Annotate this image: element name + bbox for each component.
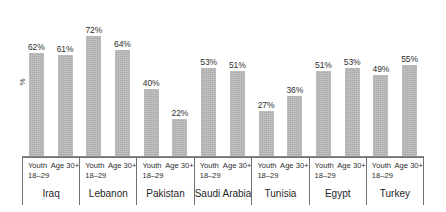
category-cell: Youth18–29Age 30+Saudi Arabia (194, 158, 252, 205)
age-group-label-line1: Youth (142, 161, 161, 171)
country-label: Pakistan (137, 184, 193, 205)
age-group-label-line1: Age 30+ (108, 161, 137, 171)
category-cell: Youth18–29Age 30+Turkey (366, 158, 423, 205)
age-group-label: Youth18–29 (252, 161, 279, 184)
bar-slot: 55% (395, 6, 424, 156)
age-group-label-line1: Youth (85, 161, 104, 171)
age-group-label-line1: Age 30+ (280, 161, 309, 171)
bar[interactable] (86, 36, 101, 156)
age-group-label: Age 30+ (107, 161, 137, 184)
bar-value-label: 51% (315, 61, 332, 70)
bar-slot: 27% (252, 6, 281, 156)
age-group-row: Youth18–29Age 30+ (310, 158, 366, 184)
bar[interactable] (115, 50, 130, 156)
age-group-row: Youth18–29Age 30+ (23, 158, 79, 184)
bar-group: 51%53% (309, 6, 366, 156)
age-group-label: Age 30+ (50, 161, 80, 184)
country-label: Egypt (310, 184, 366, 205)
bar-slot: 49% (367, 6, 396, 156)
bar-slot: 51% (223, 6, 252, 156)
bar-slot: 53% (338, 6, 367, 156)
age-group-label: Youth18–29 (310, 161, 337, 184)
bar-value-label: 51% (229, 61, 246, 70)
bar-value-label: 27% (258, 101, 275, 110)
bar[interactable] (259, 111, 274, 156)
age-group-label: Age 30+ (279, 161, 309, 184)
age-group-label-line1: Age 30+ (165, 161, 194, 171)
bar[interactable] (402, 65, 417, 156)
age-group-label: Youth18–29 (23, 161, 50, 184)
bar-slot: 51% (309, 6, 338, 156)
age-group-label: Age 30+ (164, 161, 194, 184)
bar-slot: 62% (22, 6, 51, 156)
age-group-label-line1: Age 30+ (395, 161, 424, 171)
age-group-label: Youth18–29 (137, 161, 164, 184)
age-group-label: Youth18–29 (195, 161, 222, 184)
country-label: Lebanon (80, 184, 136, 205)
bar-value-label: 53% (344, 58, 361, 67)
age-group-row: Youth18–29Age 30+ (80, 158, 136, 184)
bar[interactable] (316, 71, 331, 156)
bar-value-label: 53% (200, 58, 217, 67)
age-group-label-line1: Age 30+ (223, 161, 252, 171)
bar-slot: 72% (79, 6, 108, 156)
bar-slot: 64% (108, 6, 137, 156)
age-group-label-line1: Youth (200, 161, 219, 171)
country-label: Iraq (23, 184, 79, 205)
bar-value-label: 40% (143, 79, 160, 88)
age-group-label-line2: 18–29 (28, 171, 49, 181)
age-group-label: Age 30+ (222, 161, 252, 184)
category-cell: Youth18–29Age 30+Tunisia (251, 158, 308, 205)
bar-value-label: 22% (172, 109, 189, 118)
bar[interactable] (230, 71, 245, 156)
age-group-label-line1: Age 30+ (337, 161, 366, 171)
bar[interactable] (29, 53, 44, 156)
age-group-label-line1: Youth (315, 161, 334, 171)
bar-group: 62%61% (22, 6, 79, 156)
bar-groups: 62%61%72%64%40%22%53%51%27%36%51%53%49%5… (22, 6, 424, 156)
bar-slot: 36% (280, 6, 309, 156)
category-cell: Youth18–29Age 30+Egypt (309, 158, 366, 205)
age-group-label-line1: Age 30+ (51, 161, 80, 171)
bar-chart: % 62%61%72%64%40%22%53%51%27%36%51%53%49… (0, 0, 446, 212)
country-label: Tunisia (252, 184, 308, 205)
bar-value-label: 62% (28, 43, 45, 52)
bar[interactable] (201, 68, 216, 156)
bar-slot: 53% (194, 6, 223, 156)
age-group-label: Age 30+ (336, 161, 366, 184)
age-group-label-line2: 18–29 (142, 171, 163, 181)
bar-group: 49%55% (367, 6, 424, 156)
bar[interactable] (58, 55, 73, 156)
age-group-row: Youth18–29Age 30+ (367, 158, 423, 184)
bar-value-label: 49% (373, 65, 390, 74)
age-group-label-line1: Youth (372, 161, 391, 171)
bar-value-label: 36% (286, 86, 303, 95)
bar[interactable] (287, 96, 302, 156)
age-group-label: Youth18–29 (80, 161, 107, 184)
category-label-table: Youth18–29Age 30+IraqYouth18–29Age 30+Le… (22, 157, 424, 205)
bar-slot: 22% (166, 6, 195, 156)
bar-value-label: 64% (114, 40, 131, 49)
bar[interactable] (144, 89, 159, 156)
age-group-row: Youth18–29Age 30+ (195, 158, 252, 184)
bar-value-label: 55% (401, 55, 418, 64)
plot-area: 62%61%72%64%40%22%53%51%27%36%51%53%49%5… (22, 6, 424, 157)
bar-value-label: 61% (57, 45, 74, 54)
bar-group: 27%36% (252, 6, 309, 156)
age-group-row: Youth18–29Age 30+ (137, 158, 193, 184)
country-label: Saudi Arabia (195, 184, 252, 205)
country-label: Turkey (367, 184, 423, 205)
category-cell: Youth18–29Age 30+Iraq (22, 158, 79, 205)
age-group-row: Youth18–29Age 30+ (252, 158, 308, 184)
age-group-label-line1: Youth (257, 161, 276, 171)
bar-value-label: 72% (85, 26, 102, 35)
age-group-label-line2: 18–29 (315, 171, 336, 181)
bar[interactable] (373, 75, 388, 156)
age-group-label-line2: 18–29 (257, 171, 278, 181)
bar-group: 72%64% (79, 6, 136, 156)
bar[interactable] (345, 68, 360, 156)
bar[interactable] (172, 119, 187, 156)
age-group-label-line2: 18–29 (200, 171, 221, 181)
category-cell: Youth18–29Age 30+Pakistan (136, 158, 193, 205)
age-group-label: Youth18–29 (367, 161, 394, 184)
